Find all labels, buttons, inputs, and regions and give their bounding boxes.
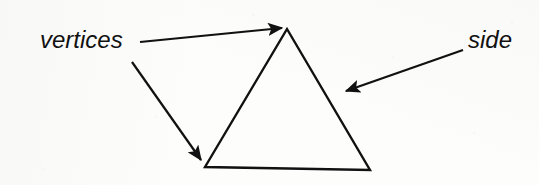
- triangle-figure: vertices side: [0, 0, 539, 185]
- label-side: side: [468, 26, 512, 53]
- triangle-shape: [205, 29, 370, 170]
- arrow-side-to-right-edge: [346, 50, 463, 91]
- arrow-vertices-to-bottom-left: [132, 62, 201, 160]
- label-vertices: vertices: [40, 26, 123, 53]
- arrow-vertices-to-apex: [140, 28, 282, 42]
- diagram-canvas: vertices side: [0, 0, 539, 185]
